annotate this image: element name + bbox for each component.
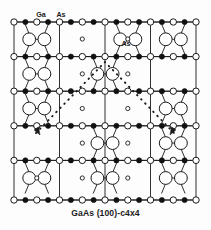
- ga-atom: [23, 123, 28, 128]
- as-dimer-atom: [38, 68, 51, 81]
- as-atom: [56, 88, 62, 94]
- ga-atom: [46, 54, 51, 59]
- ga-atom: [46, 19, 51, 24]
- ga-atom: [182, 197, 187, 202]
- as-atom: [11, 19, 17, 25]
- ga-atom: [68, 89, 73, 94]
- ga-atom: [182, 54, 187, 59]
- as-atom: [79, 53, 85, 59]
- ga-atom: [46, 197, 51, 202]
- subsurface-atom: [80, 141, 84, 145]
- as-atom: [34, 88, 40, 94]
- as-atom: [147, 53, 153, 59]
- as-dimer-atom: [175, 102, 188, 115]
- as-dimer-atom: [23, 33, 36, 46]
- as-dimer-atom: [175, 172, 188, 185]
- ga-atom: [91, 54, 96, 59]
- ga-atom: [23, 89, 28, 94]
- gaas-surface-figure: GaAsAs GaAs (100)-c4x4: [0, 0, 211, 230]
- as-atom: [79, 19, 85, 25]
- as-dimer-atom: [23, 68, 36, 81]
- as-atom: [147, 19, 153, 25]
- ga-atom: [91, 123, 96, 128]
- as-dimer-atom: [159, 172, 172, 185]
- ga-atom: [68, 197, 73, 202]
- ga-atom: [23, 19, 28, 24]
- ga-atom: [68, 19, 73, 24]
- ga-atom: [159, 158, 164, 163]
- as-atom: [56, 123, 62, 129]
- as-atom: [102, 19, 108, 25]
- as-atom: [147, 88, 153, 94]
- ga-atom: [182, 158, 187, 163]
- as-label-mid: As: [121, 39, 130, 48]
- ga-atom: [114, 54, 119, 59]
- ga-atom: [182, 89, 187, 94]
- as-dimer-atom: [159, 102, 172, 115]
- as-atom: [170, 19, 176, 25]
- as-atom: [147, 123, 153, 129]
- ga-atom: [137, 89, 142, 94]
- subsurface-atom: [80, 106, 84, 110]
- as-atom: [56, 157, 62, 163]
- ga-atom: [159, 89, 164, 94]
- as-atom: [170, 157, 176, 163]
- ga-atom: [137, 197, 142, 202]
- ga-atom: [159, 123, 164, 128]
- ga-atom: [137, 123, 142, 128]
- as-atom: [34, 197, 40, 203]
- as-dimer-atom: [38, 33, 51, 46]
- as-dimer-atom: [91, 137, 104, 150]
- as-atom: [11, 53, 17, 59]
- ga-atom: [159, 197, 164, 202]
- as-atom: [56, 53, 62, 59]
- lattice-diagram: GaAsAs: [0, 0, 211, 230]
- as-atom: [102, 197, 108, 203]
- ga-atom: [137, 19, 142, 24]
- as-atom: [193, 53, 199, 59]
- as-atom: [79, 123, 85, 129]
- subsurface-atom: [80, 176, 84, 180]
- as-atom: [11, 197, 17, 203]
- as-dimer-atom: [23, 102, 36, 115]
- ga-atom: [46, 123, 51, 128]
- as-atom: [56, 197, 62, 203]
- ga-atom: [68, 54, 73, 59]
- figure-caption: GaAs (100)-c4x4: [0, 208, 211, 218]
- as-dimer-atom: [91, 172, 104, 185]
- subsurface-atom: [80, 37, 84, 41]
- ga-atom: [182, 19, 187, 24]
- ga-atom: [114, 197, 119, 202]
- as-atom: [125, 123, 131, 129]
- as-dimer-atom: [38, 102, 51, 115]
- as-atom: [125, 157, 131, 163]
- ga-atom: [23, 197, 28, 202]
- ga-atom: [23, 54, 28, 59]
- as-dimer-atom: [175, 33, 188, 46]
- ga-atom: [114, 89, 119, 94]
- as-dimer-atom: [175, 137, 188, 150]
- as-atom: [170, 197, 176, 203]
- as-atom: [193, 19, 199, 25]
- as-atom: [11, 88, 17, 94]
- ga-atom: [159, 19, 164, 24]
- as-atom: [170, 53, 176, 59]
- as-label-top: As: [56, 10, 65, 19]
- ga-atom: [91, 19, 96, 24]
- as-atom: [147, 157, 153, 163]
- ga-atom: [68, 158, 73, 163]
- ga-atom: [91, 158, 96, 163]
- as-atom: [193, 123, 199, 129]
- as-dimer-atom: [23, 172, 36, 185]
- as-dimer-atom: [159, 33, 172, 46]
- as-atom: [34, 19, 40, 25]
- as-atom: [79, 88, 85, 94]
- ga-atom: [114, 158, 119, 163]
- as-atom: [102, 157, 108, 163]
- as-dimer-atom: [38, 172, 51, 185]
- subsurface-atom: [126, 141, 130, 145]
- as-atom: [11, 157, 17, 163]
- as-atom: [193, 157, 199, 163]
- as-atom: [34, 157, 40, 163]
- as-atom: [79, 197, 85, 203]
